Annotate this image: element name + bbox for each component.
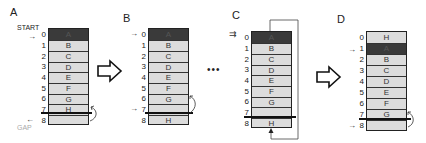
curved-move-arrow-icon [90, 107, 96, 121]
up-arrow-icon [269, 128, 274, 133]
diagram-overlay [0, 0, 426, 143]
curved-move-arrow-icon [190, 96, 195, 113]
hollow-right-arrow-icon [98, 61, 121, 81]
hollow-right-arrow-icon [317, 67, 340, 87]
curved-move-arrow-icon [408, 112, 413, 127]
wraparound-loop-arrow [270, 20, 298, 139]
